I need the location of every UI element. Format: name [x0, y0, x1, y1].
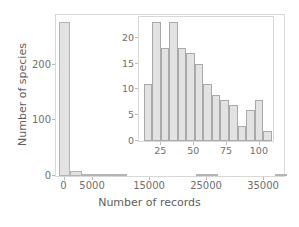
histogram-bar: [196, 174, 207, 176]
x-tick-label: 35000: [247, 180, 279, 191]
inset-x-tick-labels: 255075100: [138, 145, 274, 158]
histogram-bar: [104, 174, 115, 176]
histogram-bar: [178, 48, 187, 141]
x-tick-label: 25: [154, 145, 166, 156]
y-tick-mark: [135, 63, 138, 64]
y-tick-label: 200: [32, 58, 51, 69]
y-tick-label: 100: [32, 114, 51, 125]
histogram-bar: [203, 84, 212, 141]
x-tick-mark: [149, 177, 150, 180]
x-tick-mark: [92, 177, 93, 180]
x-tick-label: 15000: [133, 180, 165, 191]
y-axis-title: Number of species: [16, 15, 29, 175]
y-tick-label: 0: [45, 170, 51, 181]
histogram-bar: [169, 22, 178, 141]
histogram-bar: [238, 126, 247, 142]
histogram-bar: [82, 174, 93, 176]
x-tick-label: 100: [250, 145, 268, 156]
y-tick-mark: [135, 140, 138, 141]
histogram-bar: [207, 174, 218, 176]
x-tick-mark: [64, 177, 65, 180]
x-axis-title: Number of records: [0, 196, 299, 209]
histogram-bar: [116, 174, 127, 176]
x-tick-label: 75: [220, 145, 232, 156]
x-tick-mark: [226, 142, 227, 145]
y-tick-label: 15: [122, 57, 134, 68]
inset-y-tick-labels: 05101520: [112, 16, 134, 142]
y-tick-label: 5: [128, 109, 134, 120]
y-tick-mark: [135, 37, 138, 38]
x-tick-label: 5000: [79, 180, 104, 191]
main-x-tick-labels: 05000150002500035000: [55, 180, 285, 194]
histogram-bar: [93, 174, 104, 176]
histogram-bar: [152, 22, 161, 141]
histogram-bar: [186, 53, 195, 141]
histogram-bar: [246, 110, 255, 141]
y-tick-mark: [52, 64, 55, 65]
histogram-bar: [144, 84, 153, 141]
x-tick-label: 50: [187, 145, 199, 156]
y-tick-label: 10: [122, 83, 134, 94]
histogram-bar: [195, 64, 204, 142]
inset-axes-frame: [138, 16, 274, 142]
x-tick-mark: [259, 142, 260, 145]
y-tick-mark: [135, 114, 138, 115]
histogram-bar: [161, 48, 170, 141]
histogram-bar: [220, 100, 229, 141]
x-tick-mark: [160, 142, 161, 145]
histogram-bar: [70, 171, 81, 176]
y-tick-mark: [135, 88, 138, 89]
inset-plot-area: [139, 17, 273, 141]
x-tick-mark: [193, 142, 194, 145]
x-tick-label: 25000: [190, 180, 222, 191]
x-tick-mark: [206, 177, 207, 180]
main-y-tick-labels: 0100200: [26, 14, 51, 177]
y-tick-label: 0: [128, 135, 134, 146]
y-tick-mark: [52, 175, 55, 176]
x-tick-mark: [263, 177, 264, 180]
histogram-bar: [255, 100, 264, 141]
histogram-bar: [212, 95, 221, 142]
y-tick-mark: [52, 119, 55, 120]
figure-histogram-number-of-records: 0100200 05000150002500035000 Number of r…: [0, 0, 299, 227]
histogram-bar: [275, 174, 286, 176]
y-tick-label: 20: [122, 31, 134, 42]
histogram-bar: [229, 105, 238, 141]
x-tick-label: 0: [60, 180, 66, 191]
histogram-bar: [263, 131, 272, 141]
histogram-bar: [59, 22, 70, 176]
